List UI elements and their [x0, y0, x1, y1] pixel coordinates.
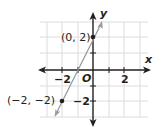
point-label-neg2-neg2: (−2, −2) — [7, 94, 55, 107]
point-0-2 — [91, 35, 96, 40]
x-tick-label-neg2: −2 — [54, 73, 71, 86]
x-axis-label: x — [144, 53, 153, 66]
x-tick-label-2: 2 — [121, 73, 129, 86]
point-neg2-neg2 — [60, 99, 65, 104]
coordinate-plane: (0, 2) (−2, −2) x y O −2 2 −2 — [0, 0, 166, 131]
y-axis-label: y — [100, 7, 108, 20]
point-label-0-2: (0, 2) — [61, 31, 91, 44]
y-tick-label-neg2: −2 — [73, 95, 90, 108]
origin-label: O — [82, 72, 91, 85]
